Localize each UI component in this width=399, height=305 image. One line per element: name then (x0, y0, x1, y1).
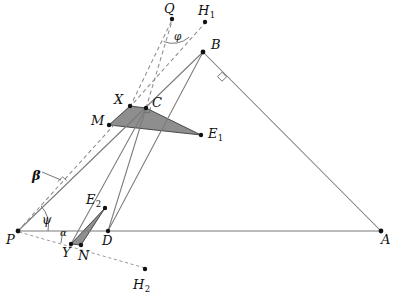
dot-H2 (143, 267, 147, 271)
dot-E1 (199, 133, 203, 137)
angle-label-alpha: α (60, 228, 67, 238)
point-label-C-text: C (152, 95, 162, 110)
dot-C (144, 106, 148, 110)
point-label-P-text: P (6, 232, 15, 247)
angle-label-beta: β (32, 169, 41, 182)
point-label-X-text: X (114, 92, 123, 107)
angle-label-phi-text: φ (174, 30, 181, 42)
point-label-X: X (114, 93, 123, 106)
diagram-canvas (0, 0, 399, 305)
point-label-M-text: M (91, 113, 104, 128)
point-label-Q: Q (164, 2, 175, 15)
angle-label-beta-text: β (32, 168, 41, 183)
angle-label-psi: ψ (42, 214, 51, 226)
point-label-A-text: A (381, 232, 390, 247)
point-label-N: N (78, 249, 89, 262)
point-label-H2: H2 (133, 278, 150, 291)
dot-M (107, 123, 111, 127)
point-label-B: B (211, 38, 221, 51)
point-label-A: A (381, 233, 390, 246)
solid-edges-layer (18, 52, 381, 244)
point-label-P: P (6, 233, 15, 246)
point-label-H1: H1 (198, 4, 215, 17)
point-label-E2: E2 (86, 193, 101, 206)
dashed-X-Q (130, 20, 172, 107)
point-label-H1-text: H (198, 3, 209, 18)
shaded-triangle-upper (109, 106, 201, 135)
angle-arcs-layer (41, 37, 189, 243)
dot-B (201, 50, 206, 55)
point-label-D: D (102, 234, 112, 247)
beta-leader-line (42, 172, 61, 180)
point-label-D-text: D (102, 233, 112, 248)
point-label-Y-text: Y (62, 245, 71, 260)
dot-H1 (203, 20, 207, 24)
dot-E2 (103, 206, 107, 210)
beta-leader-layer (42, 172, 61, 180)
angle-label-alpha-text: α (60, 227, 67, 238)
dot-Q (170, 17, 174, 21)
angle-label-phi: φ (174, 31, 181, 42)
point-label-E2-sub: 2 (96, 199, 101, 209)
point-label-H1-sub: 1 (210, 10, 215, 20)
point-label-H2-text: H (133, 277, 144, 292)
geometry-diagram: Q H1 B X C M E1 E2 P D A Y N H2 φ β ψ α (0, 0, 399, 305)
segment-Y-C (71, 108, 146, 244)
segment-D-B (108, 52, 203, 231)
point-label-Q-text: Q (164, 1, 175, 16)
point-label-E2-text: E (86, 192, 96, 207)
segment-B-A (203, 52, 381, 231)
point-label-Y: Y (62, 246, 71, 259)
point-label-M: M (91, 114, 104, 127)
point-label-E1: E1 (208, 127, 223, 140)
dot-P (16, 229, 21, 234)
point-label-E1-sub: 1 (218, 133, 223, 143)
point-label-C: C (152, 96, 162, 109)
dashed-X-H1 (129, 23, 205, 108)
dot-X (128, 104, 132, 108)
dot-N (79, 243, 83, 247)
angle-label-psi-text: ψ (42, 213, 51, 227)
segment-P-B (18, 52, 203, 231)
point-label-H2-sub: 2 (145, 284, 150, 294)
point-label-N-text: N (78, 248, 89, 263)
point-label-B-text: B (211, 37, 221, 52)
point-label-E1-text: E (208, 126, 218, 141)
